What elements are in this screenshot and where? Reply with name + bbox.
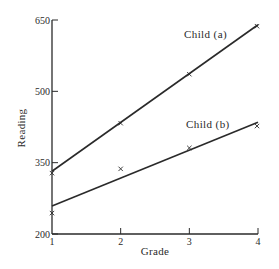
x-marker-icon [255,124,259,128]
fitted-line-child-b [52,122,258,206]
series-label-child-a: Child (a) [184,28,227,41]
x-tick-label: 3 [187,236,192,247]
plot-area: 2003505006501234GradeReadingChild (a)Chi… [15,15,261,258]
chart: 2003505006501234GradeReadingChild (a)Chi… [0,0,279,269]
series-label-child-b: Child (b) [186,118,230,131]
x-tick-label: 2 [118,236,123,247]
y-tick-label: 500 [35,86,50,97]
fitted-line-child-a [52,25,258,171]
y-tick-label: 650 [35,15,50,26]
y-axis-title: Reading [15,108,27,147]
x-tick-label: 1 [50,236,55,247]
y-tick-label: 350 [35,157,50,168]
y-tick-label: 200 [35,229,50,240]
x-axis-title: Grade [141,245,169,257]
x-marker-icon [118,167,122,171]
x-tick-label: 4 [256,236,261,247]
